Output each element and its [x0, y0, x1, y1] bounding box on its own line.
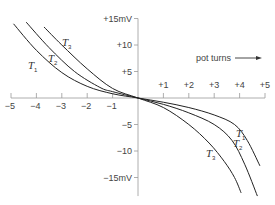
y-tick-label: +10 [117, 40, 132, 50]
curve-label-subscript: 2 [239, 145, 243, 151]
curve-label-subscript: 2 [54, 60, 58, 66]
axes [11, 19, 265, 197]
x-tick-label: −3 [56, 101, 66, 111]
chart: −5−4−3−2−1+1+2+3+4+5+15mV+10+5−5−10−15mV… [0, 0, 275, 205]
x-tick-label: +4 [234, 80, 244, 90]
x-tick-label: −5 [5, 101, 15, 111]
x-tick-label: +1 [158, 80, 168, 90]
x-axis-annotation: pot turns [196, 53, 232, 63]
curve-label-subscript: 3 [212, 155, 216, 161]
y-tick-label: −5 [122, 120, 132, 130]
y-tick-label: +5 [122, 67, 132, 77]
y-tick-label: −15mV [103, 173, 132, 183]
curve-label-subscript: 3 [68, 44, 72, 50]
curve-t3 [44, 27, 241, 193]
y-tick-label: +15mV [103, 14, 132, 24]
x-tick-label: +3 [209, 80, 219, 90]
x-tick-label: −4 [30, 101, 40, 111]
x-tick-label: +5 [260, 80, 270, 90]
x-tick-label: −1 [106, 101, 116, 111]
y-tick-label: −10 [117, 146, 132, 156]
x-tick-label: −2 [81, 101, 91, 111]
arrowhead-icon [256, 56, 262, 60]
curves [14, 22, 260, 196]
curve-label-subscript: 1 [34, 67, 38, 73]
x-tick-label: +2 [184, 80, 194, 90]
